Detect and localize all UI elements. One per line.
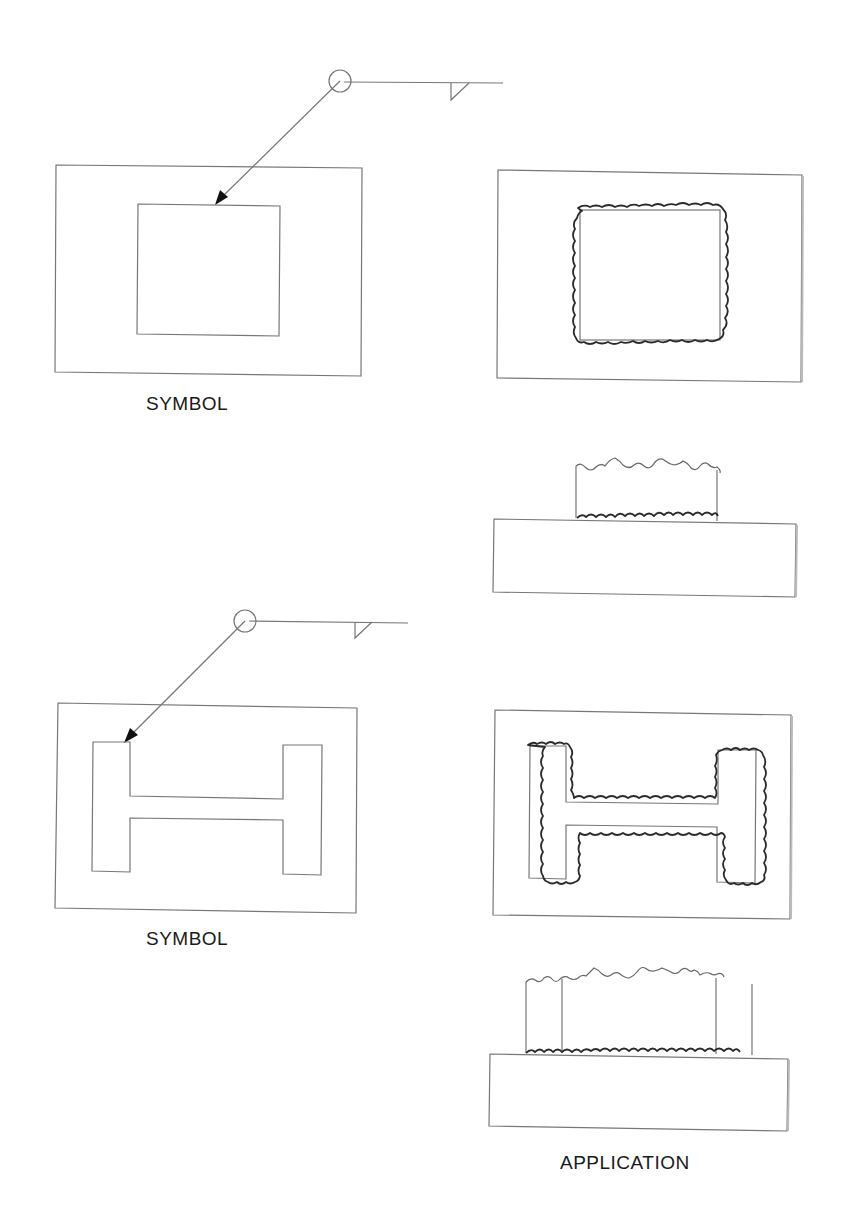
weld-diagram-canvas [0, 0, 842, 1230]
base-plate-side [489, 1054, 788, 1131]
example-2-symbol [55, 610, 408, 913]
reference-line [344, 82, 503, 83]
fillet-weld-triangle-icon [355, 622, 372, 638]
application-label: APPLICATION [560, 1152, 690, 1174]
plate-edge-shadow [796, 525, 797, 597]
plate-edge-shadow [802, 176, 803, 382]
break-line [526, 968, 724, 983]
break-line [576, 458, 720, 473]
weld-bead-fillet [526, 1049, 740, 1054]
reference-line [249, 621, 408, 623]
example-2-application-plan [493, 710, 792, 919]
fillet-weld-triangle-icon [451, 83, 469, 100]
symbol-label-top: SYMBOL [146, 393, 228, 415]
leader-line [222, 81, 340, 197]
leader-line [132, 621, 245, 734]
weld-bead-outline [528, 742, 766, 885]
h-beam-plan [529, 746, 756, 883]
weld-bead-outline [573, 203, 728, 344]
base-plate-plan [497, 170, 802, 382]
base-plate-plan [55, 703, 357, 913]
example-1-application-side [493, 458, 797, 597]
example-1-symbol [55, 70, 503, 376]
plate-edge-shadow [791, 716, 792, 919]
example-2-application-side [489, 968, 789, 1132]
symbol-label-bottom: SYMBOL [146, 928, 228, 950]
weld-symbol-1 [215, 70, 503, 205]
square-tube-plan [580, 210, 720, 340]
example-1-application-plan [497, 170, 803, 382]
weld-bead-fillet [577, 513, 718, 519]
plate-edge-shadow [788, 1060, 789, 1131]
h-beam-plan [92, 742, 322, 875]
base-plate-plan [55, 165, 362, 376]
base-plate-plan [493, 710, 791, 919]
weld-symbol-2 [124, 610, 408, 743]
base-plate-side [493, 519, 796, 597]
square-tube-plan [137, 204, 280, 336]
